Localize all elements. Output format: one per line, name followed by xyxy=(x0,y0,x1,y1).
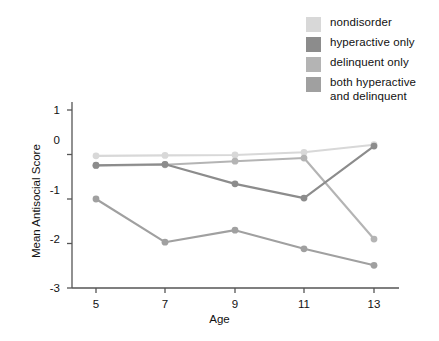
chart-figure: Mean Antisocial Score Age 1 0 -1 -2 -3 5… xyxy=(0,0,439,341)
data-point xyxy=(93,162,100,169)
data-point xyxy=(301,245,308,252)
legend-swatch-icon xyxy=(306,17,321,32)
x-axis-title: Age xyxy=(0,313,439,325)
data-point xyxy=(301,195,308,202)
data-point xyxy=(93,152,100,159)
data-point xyxy=(162,161,169,168)
data-point xyxy=(232,227,239,234)
data-point xyxy=(371,262,378,269)
legend-label: nondisorder xyxy=(330,16,392,30)
y-tick-label-m3: -3 xyxy=(34,282,60,294)
legend-swatch-icon xyxy=(306,77,321,92)
legend-item-nondisorder: nondisorder xyxy=(306,16,416,32)
data-point xyxy=(93,196,100,203)
legend-label: both hyperactive and delinquent xyxy=(330,76,416,103)
y-tick-label-m1: -1 xyxy=(34,184,60,196)
y-tick-label-m2: -2 xyxy=(34,233,60,245)
legend-label: hyperactive only xyxy=(330,36,415,50)
data-point xyxy=(232,152,239,159)
data-point xyxy=(301,155,308,162)
x-tick-label-7: 7 xyxy=(152,298,178,310)
data-point xyxy=(162,239,169,246)
y-tick-label-0: 0 xyxy=(34,134,60,146)
legend-label: delinquent only xyxy=(330,56,409,70)
x-tick-label-13: 13 xyxy=(361,298,387,310)
data-point xyxy=(162,152,169,159)
x-tick-label-5: 5 xyxy=(83,298,109,310)
data-point xyxy=(232,180,239,187)
legend-swatch-icon xyxy=(306,57,321,72)
chart-legend: nondisorder hyperactive only delinquent … xyxy=(306,16,416,103)
legend-item-delinquent-only: delinquent only xyxy=(306,56,416,72)
x-tick-label-11: 11 xyxy=(291,298,317,310)
legend-swatch-icon xyxy=(306,37,321,52)
legend-item-hyperactive-only: hyperactive only xyxy=(306,36,416,52)
x-tick-label-9: 9 xyxy=(222,298,248,310)
y-tick-label-1: 1 xyxy=(34,104,60,116)
data-point xyxy=(232,158,239,165)
data-point xyxy=(371,236,378,243)
data-point xyxy=(371,143,378,150)
legend-item-both-hyperactive-and-delinquent: both hyperactive and delinquent xyxy=(306,76,416,103)
